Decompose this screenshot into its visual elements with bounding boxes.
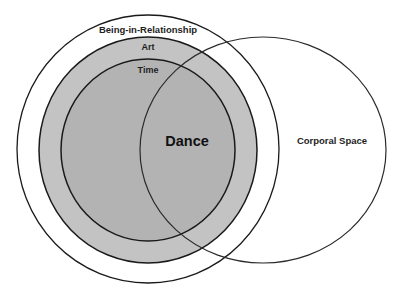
art-label: Art <box>142 42 155 52</box>
time-circle <box>61 59 235 241</box>
venn-diagram: Being-in-Relationship Art Time Dance Cor… <box>0 0 402 298</box>
being-in-relationship-label: Being-in-Relationship <box>99 24 197 35</box>
dance-label: Dance <box>165 133 209 149</box>
corporal-space-label: Corporal Space <box>297 135 367 146</box>
time-label: Time <box>138 65 159 75</box>
